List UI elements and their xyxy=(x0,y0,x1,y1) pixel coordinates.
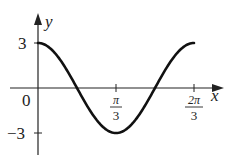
y-axis-arrow-icon xyxy=(34,13,42,25)
x-tick-label-pi-3-den: 3 xyxy=(113,108,120,123)
x-tick-label-2pi-3-den: 3 xyxy=(191,108,198,123)
origin-label: 0 xyxy=(22,91,31,110)
cosine-graph: y x 3 −3 0 π 3 2π 3 xyxy=(0,0,234,162)
x-axis-label: x xyxy=(210,86,219,105)
x-tick-label-2pi-3-num: 2π xyxy=(188,93,201,107)
x-tick-label-pi-3-num: π xyxy=(113,93,120,107)
y-tick-label-3: 3 xyxy=(18,34,27,53)
y-axis-label: y xyxy=(43,12,53,31)
y-tick-label-neg3: −3 xyxy=(7,124,25,143)
